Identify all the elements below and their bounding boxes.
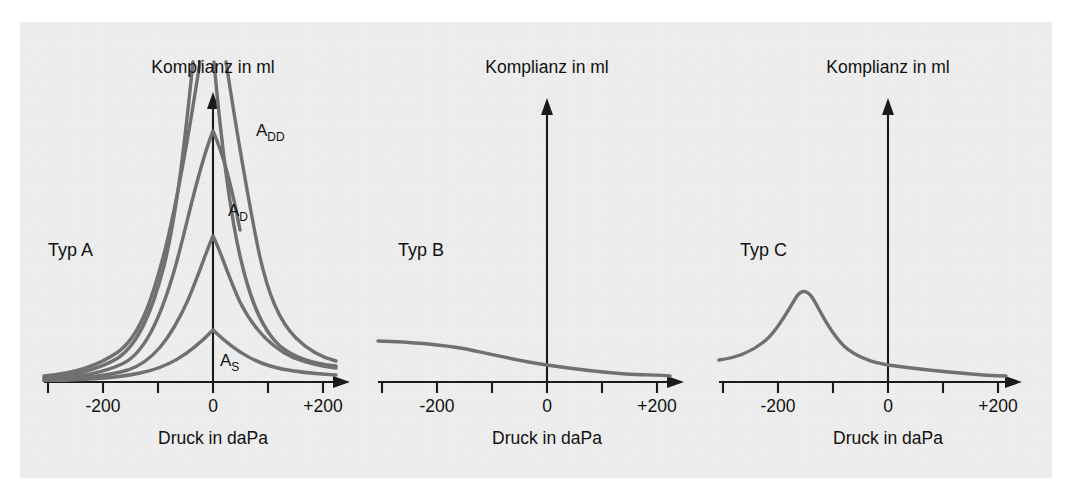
y-axis-arrow-icon xyxy=(882,98,894,115)
panel-c-x-axis xyxy=(719,376,1022,393)
panel-c-y-axis-title: Komplianz in ml xyxy=(826,57,950,77)
curve-c xyxy=(719,291,1006,376)
panel-c-y-axis xyxy=(882,98,894,382)
panel-c-xtick-plus200: +200 xyxy=(978,396,1018,416)
x-axis-arrow-icon xyxy=(1005,376,1022,388)
panel-c-x-axis-title: Druck in daPa xyxy=(833,428,943,448)
panel-c-xtick-zero: 0 xyxy=(883,396,893,416)
panel-c-type-label: Typ C xyxy=(740,240,787,260)
panel-c-xtick-minus200: -200 xyxy=(760,396,795,416)
panel-typ-c: Komplianz in ml Druck in daPa -200 0 +20… xyxy=(0,0,1071,494)
figure-root: Komplianz in ml Druck in daPa -200 0 +20… xyxy=(0,0,1071,494)
